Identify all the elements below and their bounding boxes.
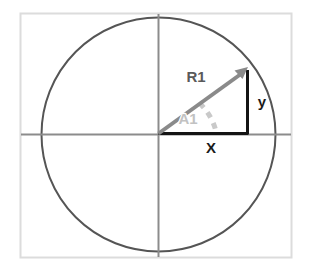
label-a1: A1 (178, 110, 197, 127)
label-x: X (206, 139, 216, 156)
angle-arc-A1 (200, 103, 217, 133)
trigonometry-diagram: R1 A1 X y (0, 0, 310, 276)
label-y: y (258, 93, 267, 110)
diagram-canvas: R1 A1 X y (0, 0, 310, 276)
label-r1: R1 (186, 68, 205, 85)
